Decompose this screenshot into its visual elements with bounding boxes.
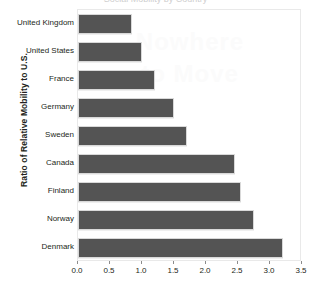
bar[interactable] — [78, 70, 155, 90]
bar[interactable] — [78, 126, 187, 146]
y-axis-tick-label: Germany — [41, 93, 74, 121]
bar-chart: Social Mobility by Country Ratio of Rela… — [0, 0, 311, 286]
x-axis-tick — [205, 261, 206, 264]
bar[interactable] — [78, 98, 174, 118]
bar-row[interactable] — [78, 206, 254, 234]
x-axis-tick — [269, 261, 270, 264]
x-axis-tick-label: 2.0 — [199, 266, 210, 275]
y-axis-tick-labels: United KingdomUnited StatesFranceGermany… — [0, 9, 77, 261]
x-axis-tick-label: 3.0 — [263, 266, 274, 275]
x-axis-tick — [109, 261, 110, 264]
x-axis-tick — [173, 261, 174, 264]
x-axis-tick-label: 2.5 — [231, 266, 242, 275]
y-axis-tick-label: Denmark — [42, 233, 74, 261]
bar-row[interactable] — [78, 10, 132, 38]
x-axis-tick-label: 0.0 — [71, 266, 82, 275]
x-axis: 0.00.51.01.52.02.53.03.5 — [77, 261, 301, 286]
bar[interactable] — [78, 210, 254, 230]
x-axis-tick-label: 1.0 — [135, 266, 146, 275]
bar[interactable] — [78, 154, 235, 174]
plot-area: Nowhere to Move — [77, 9, 301, 261]
y-axis-tick-label: Finland — [48, 177, 74, 205]
bar-row[interactable] — [78, 178, 241, 206]
x-axis-tick-label: 0.5 — [103, 266, 114, 275]
bar[interactable] — [78, 42, 142, 62]
bar-row[interactable] — [78, 66, 155, 94]
x-axis-tick — [141, 261, 142, 264]
bar[interactable] — [78, 182, 241, 202]
bar-row[interactable] — [78, 150, 235, 178]
x-axis-tick-label: 3.5 — [295, 266, 306, 275]
y-axis-tick-label: United States — [26, 37, 74, 65]
bar-row[interactable] — [78, 234, 283, 262]
x-axis-tick — [237, 261, 238, 264]
bar[interactable] — [78, 238, 283, 258]
y-axis-tick-label: Norway — [47, 205, 74, 233]
y-axis-tick-label: France — [49, 65, 74, 93]
bar-row[interactable] — [78, 122, 187, 150]
chart-title-text: Social Mobility by Country — [104, 0, 208, 4]
y-axis-tick-label: United Kingdom — [17, 9, 74, 37]
x-axis-tick — [77, 261, 78, 264]
bar-series — [78, 10, 302, 262]
y-axis-tick-label: Sweden — [45, 121, 74, 149]
bar-row[interactable] — [78, 38, 142, 66]
x-axis-tick-label: 1.5 — [167, 266, 178, 275]
bar[interactable] — [78, 14, 132, 34]
bar-row[interactable] — [78, 94, 174, 122]
x-axis-tick — [301, 261, 302, 264]
chart-title-cutoff: Social Mobility by Country — [0, 0, 311, 7]
y-axis-tick-label: Canada — [46, 149, 74, 177]
